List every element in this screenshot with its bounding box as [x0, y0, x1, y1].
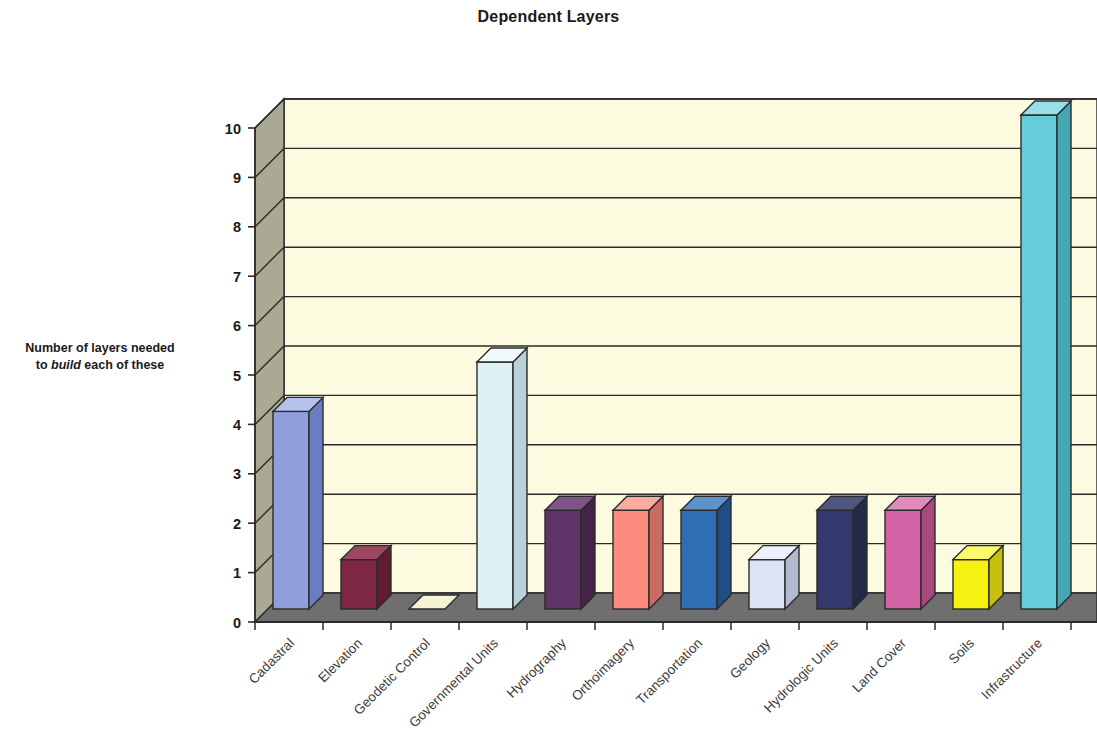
bar-side-face: [581, 496, 595, 609]
bar-side-face: [513, 348, 527, 609]
bar-front-face: [273, 411, 309, 609]
x-axis-category-label: Orthoimagery: [569, 635, 638, 704]
y-axis-tick-label: 5: [233, 368, 241, 384]
x-axis-category-label: Land Cover: [849, 635, 909, 695]
bar-side-face: [921, 496, 935, 609]
bar-front-face: [477, 362, 513, 609]
bar-side-face: [1057, 101, 1071, 609]
y-axis-tick-label: 6: [233, 318, 241, 334]
y-axis-tick-label: 2: [233, 516, 241, 532]
bar-group: [273, 397, 323, 609]
y-axis-tick-label: 9: [233, 170, 241, 186]
bar-group: [885, 496, 935, 609]
bar-group: [817, 496, 867, 609]
y-axis-tick-label: 8: [233, 219, 241, 235]
bar-group: [681, 496, 731, 609]
bar-group: [613, 496, 663, 609]
y-axis-tick-label: 7: [233, 269, 241, 285]
bar-side-face: [853, 496, 867, 609]
bar-group: [749, 546, 799, 609]
bar-front-face: [545, 510, 581, 609]
bar-group: [477, 348, 527, 609]
x-axis-category-label: Geology: [727, 635, 773, 681]
x-axis-category-label: Cadastral: [246, 636, 297, 687]
x-axis-category-label: Elevation: [315, 636, 365, 686]
bar-side-face: [309, 397, 323, 609]
plot-area: 012345678910CadastralElevationGeodetic C…: [0, 0, 1097, 747]
x-axis-category-label: Infrastructure: [978, 636, 1045, 703]
bar-side-face: [649, 496, 663, 609]
x-axis-category-label: Soils: [946, 635, 977, 666]
bar-group: [341, 546, 391, 609]
bar-front-face: [749, 560, 785, 609]
bar-front-face: [341, 560, 377, 609]
bar-side-face: [717, 496, 731, 609]
x-axis-category-label: Hydrologic Units: [761, 635, 841, 715]
bar-group: [1021, 101, 1071, 609]
chart-container: Dependent Layers Number of layers needed…: [0, 0, 1097, 747]
bar-front-face: [681, 510, 717, 609]
bar-front-face: [1021, 115, 1057, 609]
bar-front-face: [613, 510, 649, 609]
y-axis-tick-label: 10: [225, 121, 241, 137]
y-axis-tick-label: 3: [233, 466, 241, 482]
bar-front-face: [885, 510, 921, 609]
y-axis-tick-label: 4: [233, 417, 241, 433]
bar-front-face: [817, 510, 853, 609]
x-axis-category-label: Hydrography: [504, 635, 569, 700]
y-axis-tick-label: 1: [233, 565, 241, 581]
bar-group: [545, 496, 595, 609]
bar-front-face: [953, 560, 989, 609]
y-axis-tick-label: 0: [233, 615, 241, 631]
x-axis-category-label: Transportation: [633, 636, 705, 708]
bar-group: [953, 546, 1003, 609]
